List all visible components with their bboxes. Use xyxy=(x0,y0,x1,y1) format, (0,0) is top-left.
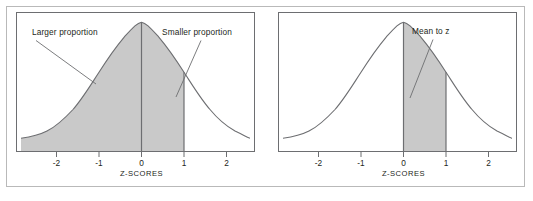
mean-to-z-panel: -2 -1 0 1 2 Z-SCORES Mean to z xyxy=(278,12,517,178)
x-axis-title: Z-SCORES xyxy=(382,169,425,178)
larger-proportion-label: Larger proportion xyxy=(32,27,98,37)
tick-label-pos2: 2 xyxy=(224,158,229,168)
tick-label-pos2: 2 xyxy=(486,158,491,168)
larger-and-smaller-proportion-panel: -2 -1 0 1 2 Z-SCORES Larger proportion S… xyxy=(16,12,255,178)
tick-label-neg1: -1 xyxy=(95,158,103,168)
x-axis-title: Z-SCORES xyxy=(120,169,163,178)
tick-label-pos1: 1 xyxy=(444,158,449,168)
tick-label-zero: 0 xyxy=(401,158,406,168)
tick-label-neg2: -2 xyxy=(315,158,323,168)
panel-border xyxy=(279,13,517,152)
tick-label-neg1: -1 xyxy=(357,158,365,168)
figure-root: -2 -1 0 1 2 Z-SCORES Larger proportion S… xyxy=(0,0,533,201)
tick-label-zero: 0 xyxy=(139,158,144,168)
smaller-proportion-label: Smaller proportion xyxy=(162,27,232,37)
mean-to-z-label: Mean to z xyxy=(412,26,450,36)
tick-label-neg2: -2 xyxy=(53,158,61,168)
tick-label-pos1: 1 xyxy=(182,158,187,168)
